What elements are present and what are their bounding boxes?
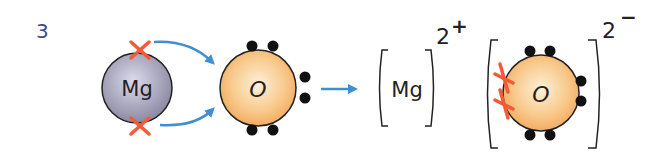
electron-dot-icon (247, 41, 258, 52)
electron-dot-icon (525, 46, 536, 57)
magnesium-atom: Mg (102, 42, 172, 134)
electron-dot-icon (268, 125, 279, 136)
magnesium-ion: Mg 2 + (380, 14, 468, 126)
magnesium-ion-symbol: Mg (391, 78, 422, 102)
electron-dot-icon (545, 130, 556, 141)
electron-dot-icon (247, 125, 258, 136)
question-number: 3 (36, 19, 49, 43)
electron-dot-icon (576, 76, 587, 87)
ionic-bonding-diagram: 3 Mg O Mg (0, 0, 656, 156)
oxide-ion-charge-sign: − (620, 5, 637, 29)
electron-transfer-arrow-icon (160, 110, 212, 125)
oxygen-atom: O (220, 41, 311, 136)
left-bracket (488, 40, 499, 148)
electron-dot-icon (268, 41, 279, 52)
right-bracket (588, 40, 600, 148)
electron-transfer-arrow-icon (154, 42, 212, 62)
magnesium-symbol: Mg (121, 77, 152, 101)
oxide-ion: O 2 − (488, 5, 637, 148)
charge-number: 2 (602, 18, 616, 43)
electron-dot-icon (545, 46, 556, 57)
oxide-ion-symbol: O (532, 82, 549, 107)
magnesium-ion-charge: 2 (436, 24, 450, 49)
left-bracket (380, 50, 389, 126)
electron-dot-icon (525, 130, 536, 141)
electron-dot-icon (300, 72, 311, 83)
oxide-ion-charge: 2 (602, 18, 616, 43)
charge-number: 2 (436, 24, 450, 49)
magnesium-ion-charge-sign: + (451, 14, 468, 38)
electron-dot-icon (300, 93, 311, 104)
electron-dot-icon (576, 96, 587, 107)
oxygen-symbol: O (249, 77, 266, 102)
right-bracket (425, 50, 434, 126)
